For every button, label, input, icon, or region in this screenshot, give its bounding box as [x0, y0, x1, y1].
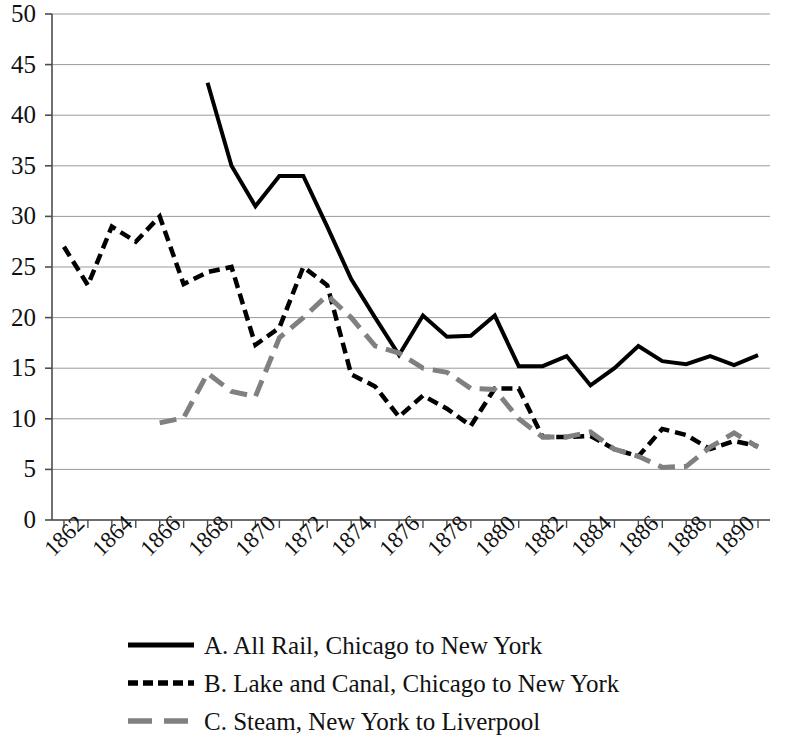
y-tick-label: 5 — [0, 456, 36, 481]
y-tick-label: 35 — [0, 153, 36, 178]
legend-item-c[interactable]: C. Steam, New York to Liverpool — [128, 702, 728, 740]
legend-item-b[interactable]: B. Lake and Canal, Chicago to New York — [128, 664, 728, 702]
y-tick-label: 50 — [0, 1, 36, 26]
y-tick-label: 40 — [0, 102, 36, 127]
y-tick-label: 0 — [0, 507, 36, 532]
legend-swatch-solid-line-icon — [128, 635, 198, 655]
legend-swatch-dashed-line-icon — [128, 673, 198, 693]
data-series-group — [64, 83, 758, 468]
legend-label-a: A. All Rail, Chicago to New York — [204, 633, 542, 658]
y-tick-marks-group — [45, 14, 52, 520]
legend-label-c: C. Steam, New York to Liverpool — [204, 709, 540, 734]
series-line-a — [208, 83, 758, 386]
legend-item-a[interactable]: A. All Rail, Chicago to New York — [128, 626, 728, 664]
y-tick-label: 15 — [0, 355, 36, 380]
y-tick-label: 30 — [0, 203, 36, 228]
legend-label-b: B. Lake and Canal, Chicago to New York — [204, 671, 619, 696]
series-line-c — [160, 295, 758, 467]
chart-figure: 05101520253035404550 1862186418661868187… — [0, 0, 787, 743]
y-tick-label: 10 — [0, 406, 36, 431]
y-tick-label: 20 — [0, 305, 36, 330]
y-tick-label: 45 — [0, 52, 36, 77]
y-tick-label: 25 — [0, 254, 36, 279]
chart-legend: A. All Rail, Chicago to New York B. Lake… — [128, 626, 728, 740]
gridlines-group — [52, 14, 770, 520]
legend-swatch-gray-dashed-line-icon — [128, 711, 198, 731]
